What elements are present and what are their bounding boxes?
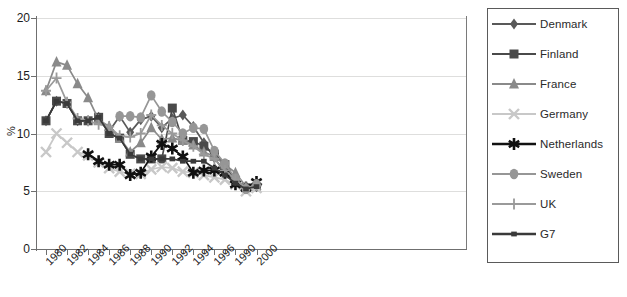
circle-marker bbox=[168, 117, 177, 127]
small-square-marker bbox=[117, 136, 123, 141]
small-square-marker bbox=[511, 232, 517, 237]
legend-item-sweden[interactable]: Sweden bbox=[488, 159, 618, 189]
plus-marker-icon bbox=[488, 190, 540, 218]
legend-label: Finland bbox=[540, 48, 578, 60]
legend-label: Netherlands bbox=[540, 138, 603, 150]
circle-marker bbox=[200, 124, 209, 134]
legend-label: Sweden bbox=[540, 168, 582, 180]
circle-marker bbox=[115, 111, 124, 121]
circle-marker bbox=[189, 123, 198, 133]
cross-marker bbox=[41, 147, 51, 157]
legend-item-netherlands[interactable]: Netherlands bbox=[488, 129, 618, 159]
small-square-marker bbox=[180, 159, 186, 164]
legend-label: UK bbox=[540, 198, 556, 210]
cross-marker bbox=[52, 129, 62, 139]
circle-marker bbox=[157, 106, 166, 116]
small-square-marker bbox=[85, 118, 91, 123]
triangle-marker bbox=[146, 122, 156, 133]
triangle-marker-icon bbox=[488, 70, 540, 98]
legend-item-france[interactable]: France bbox=[488, 69, 618, 99]
small-square-marker bbox=[75, 118, 81, 123]
chart-legend: DenmarkFinlandFranceGermanyNetherlandsSw… bbox=[487, 8, 619, 263]
legend-label: Germany bbox=[540, 108, 588, 120]
small-square-marker bbox=[254, 184, 260, 189]
small-square-marker-icon bbox=[488, 220, 540, 248]
legend-item-denmark[interactable]: Denmark bbox=[488, 9, 618, 39]
small-square-marker bbox=[170, 157, 176, 162]
circle-marker-icon bbox=[488, 160, 540, 188]
circle-marker bbox=[136, 112, 145, 122]
legend-label: G7 bbox=[540, 228, 556, 240]
legend-label: France bbox=[540, 78, 576, 90]
diamond-marker-icon bbox=[488, 10, 540, 38]
triangle-marker bbox=[73, 78, 83, 89]
cross-marker bbox=[62, 138, 72, 148]
small-square-marker bbox=[54, 99, 60, 104]
small-square-marker bbox=[96, 115, 102, 120]
small-square-marker bbox=[43, 118, 49, 123]
small-square-marker bbox=[212, 166, 218, 171]
small-square-marker bbox=[222, 173, 228, 178]
legend-item-uk[interactable]: UK bbox=[488, 189, 618, 219]
square-marker bbox=[168, 104, 177, 113]
cross-marker-icon bbox=[488, 100, 540, 128]
small-square-marker bbox=[201, 159, 207, 164]
plus-marker bbox=[167, 128, 177, 139]
cross-marker bbox=[73, 147, 83, 157]
small-square-marker bbox=[191, 159, 197, 164]
small-square-marker bbox=[233, 181, 239, 186]
legend-item-finland[interactable]: Finland bbox=[488, 39, 618, 69]
plus-marker bbox=[125, 131, 135, 142]
small-square-marker bbox=[127, 152, 133, 157]
legend-label: Denmark bbox=[540, 18, 587, 30]
small-square-marker bbox=[106, 131, 112, 136]
legend-item-g7[interactable]: G7 bbox=[488, 219, 618, 249]
square-marker bbox=[510, 50, 519, 59]
circle-marker bbox=[147, 90, 156, 100]
legend-item-germany[interactable]: Germany bbox=[488, 99, 618, 129]
small-square-marker bbox=[159, 157, 165, 162]
diamond-marker bbox=[510, 19, 518, 30]
plus-marker bbox=[509, 199, 519, 210]
circle-marker bbox=[510, 169, 519, 179]
triangle-marker bbox=[52, 56, 62, 67]
small-square-marker bbox=[64, 101, 70, 106]
asterisk-marker-icon bbox=[488, 130, 540, 158]
asterisk-marker bbox=[167, 143, 177, 155]
small-square-marker bbox=[138, 157, 144, 162]
small-square-marker bbox=[243, 187, 249, 192]
circle-marker bbox=[126, 111, 135, 121]
chart-root: 20151050 % 19801982198419861988199019921… bbox=[0, 0, 627, 297]
square-marker-icon bbox=[488, 40, 540, 68]
small-square-marker bbox=[148, 157, 154, 162]
